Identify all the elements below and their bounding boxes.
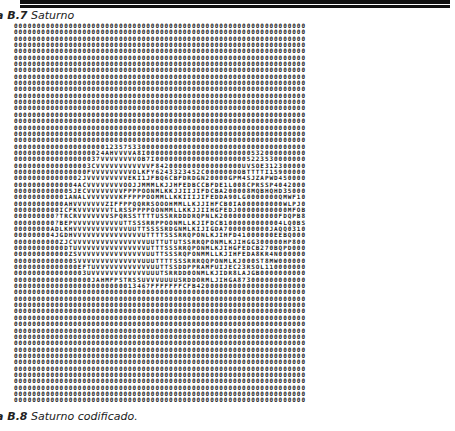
top-rule-thick (20, 0, 450, 4)
encoded-character-grid: 0000000000000000000000000000000000000000… (14, 23, 306, 404)
figure-title-bottom: Saturno codificado. (31, 410, 138, 423)
figure-label-top: a B.7 (0, 9, 27, 22)
grid-row: 0000000000000000000000000000000000000000… (14, 397, 306, 403)
figure-title-top: Saturno (31, 9, 74, 22)
figure-caption-bottom: a B.8 Saturno codificado. (0, 410, 138, 423)
top-rule-thin (20, 5, 450, 8)
figure-caption-top: a B.7 Saturno (0, 9, 74, 22)
figure-label-bottom: a B.8 (0, 410, 27, 423)
